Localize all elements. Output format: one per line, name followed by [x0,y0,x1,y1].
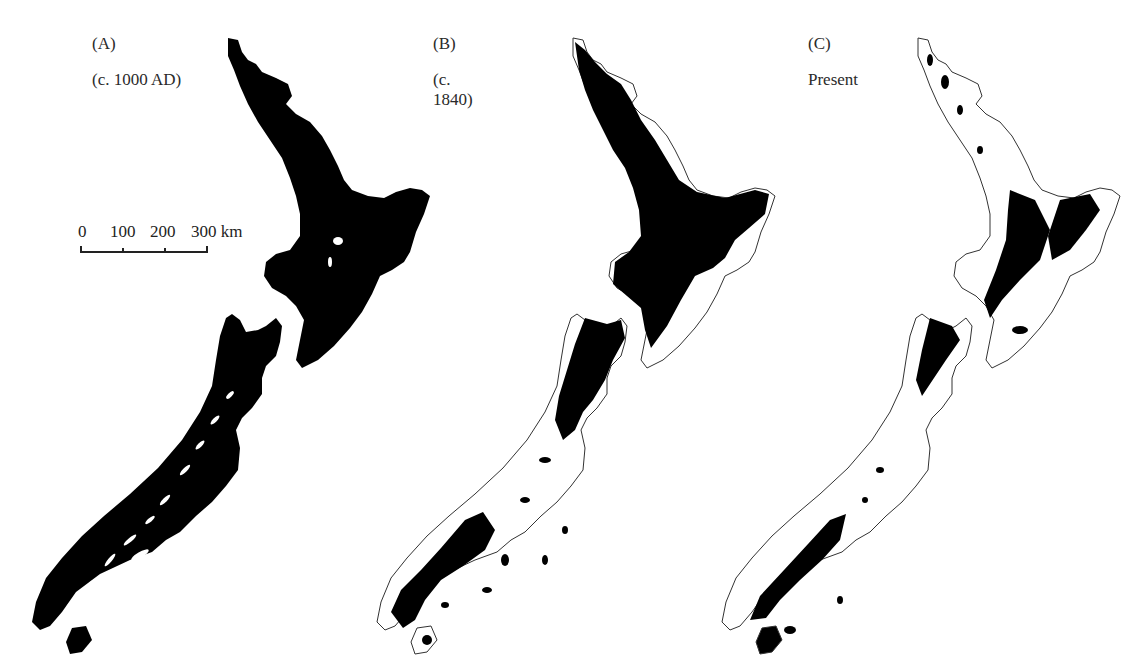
forest-map-present [0,0,1142,671]
